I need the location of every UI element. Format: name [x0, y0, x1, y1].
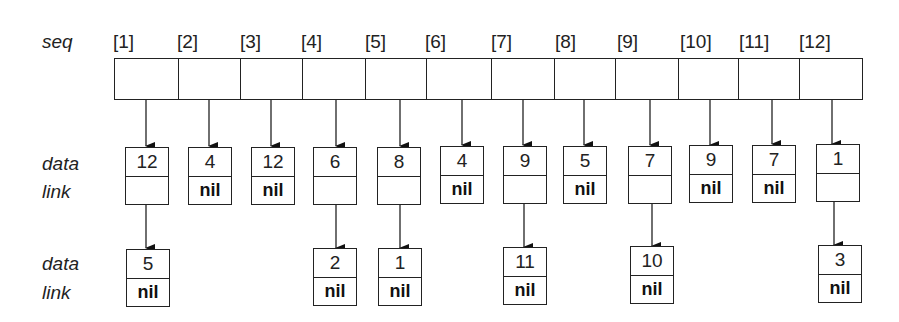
node-row2-col1: 5 nil	[126, 249, 170, 307]
node-row1-5: 8	[377, 147, 421, 205]
node-link-field: nil	[690, 175, 732, 202]
node-link-field: nil	[189, 177, 231, 204]
node-row1-2: 4 nil	[188, 147, 232, 205]
node-link-field	[817, 174, 859, 201]
node-row1-4: 6	[313, 147, 357, 205]
node-data-field: 1	[379, 249, 421, 278]
node-row1-7: 9	[503, 146, 547, 204]
node-row1-3: 12 nil	[251, 147, 295, 205]
node-row1-6: 4 nil	[440, 146, 484, 204]
node-row1-11: 7 nil	[752, 145, 796, 203]
node-link-field	[314, 177, 356, 204]
node-row1-1: 12	[125, 147, 169, 205]
node-data-field: 8	[378, 148, 420, 177]
node-row1-12: 1	[816, 144, 860, 202]
node-row2-col12: 3 nil	[818, 245, 862, 303]
node-link-field: nil	[314, 278, 356, 305]
node-link-field: nil	[753, 175, 795, 202]
node-data-field: 9	[504, 147, 546, 176]
node-link-field	[378, 177, 420, 204]
node-link-field: nil	[379, 278, 421, 305]
node-data-field: 6	[314, 148, 356, 177]
node-data-field: 5	[127, 250, 169, 279]
node-data-field: 12	[252, 148, 294, 177]
node-link-field: nil	[631, 276, 673, 303]
node-row1-10: 9 nil	[689, 145, 733, 203]
node-row1-8: 5 nil	[563, 146, 607, 204]
node-row2-col4: 2 nil	[313, 248, 357, 306]
node-row1-9: 7	[628, 146, 672, 204]
node-data-field: 7	[629, 147, 671, 176]
node-data-field: 9	[690, 146, 732, 175]
node-data-field: 7	[753, 146, 795, 175]
node-link-field: nil	[564, 176, 606, 203]
node-link-field: nil	[819, 275, 861, 302]
node-link-field	[126, 177, 168, 204]
node-data-field: 10	[631, 247, 673, 276]
node-row2-col9: 10 nil	[630, 246, 674, 304]
node-row2-col5: 1 nil	[378, 248, 422, 306]
node-data-field: 3	[819, 246, 861, 275]
node-link-field	[504, 176, 546, 203]
node-link-field: nil	[504, 277, 546, 304]
node-data-field: 1	[817, 145, 859, 174]
node-link-field: nil	[252, 177, 294, 204]
node-data-field: 12	[126, 148, 168, 177]
node-data-field: 4	[441, 147, 483, 176]
node-data-field: 11	[504, 248, 546, 277]
node-link-field	[629, 176, 671, 203]
node-link-field: nil	[127, 279, 169, 306]
node-link-field: nil	[441, 176, 483, 203]
node-data-field: 4	[189, 148, 231, 177]
node-row2-col7: 11 nil	[503, 247, 547, 305]
node-data-field: 2	[314, 249, 356, 278]
node-data-field: 5	[564, 147, 606, 176]
